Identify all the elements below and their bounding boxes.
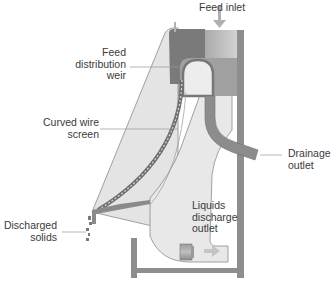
drainage-outlet-label: Drainage outlet bbox=[288, 148, 331, 171]
liquids-discharge-outlet-label: Liquids discharge outlet bbox=[192, 200, 238, 235]
curved-wire-screen-label: Curved wire screen bbox=[43, 117, 99, 140]
sieve-bend-diagram bbox=[0, 0, 331, 290]
feed-distribution-weir-label: Feed distribution weir bbox=[75, 47, 126, 82]
feed-inlet-label: Feed inlet bbox=[199, 2, 245, 14]
feed-box bbox=[169, 29, 237, 96]
liquids-outlet-pipe bbox=[180, 244, 194, 260]
discharged-solids-label: Discharged solids bbox=[4, 220, 57, 243]
small-down-arrow-icon bbox=[174, 22, 176, 32]
solids-particles bbox=[86, 216, 92, 241]
